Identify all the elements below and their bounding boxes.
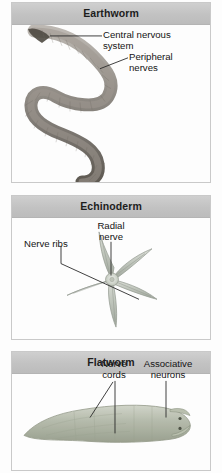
label-peripheral-nerves: Peripheral nerves [129,51,173,74]
label-associative-neurons: Associative neurons [137,358,199,381]
panel-header-earthworm: Earthworm [12,3,210,25]
label-nerve-ribs: Nerve ribs [24,238,68,249]
flatworm-illustration [12,374,210,470]
panel-body-earthworm: Central nervous system Peripheral nerves [12,25,210,182]
panel-flatworm: Flatworm [11,351,211,471]
panel-earthworm: Earthworm [11,2,211,183]
label-central-nervous-system: Central nervous system [103,29,171,52]
panel-body-flatworm: Nerve cords Associative neurons [12,374,210,470]
panel-title-earthworm: Earthworm [83,8,139,19]
figure-root: Earthworm [0,0,222,473]
label-radial-nerve: Radial nerve [85,220,137,243]
panel-echinoderm: Echinoderm [11,195,211,340]
panel-title-echinoderm: Echinoderm [80,201,142,212]
label-nerve-cords: Nerve cords [91,358,137,381]
panel-header-echinoderm: Echinoderm [12,196,210,218]
panel-body-echinoderm: Radial nerve Nerve ribs [12,218,210,339]
